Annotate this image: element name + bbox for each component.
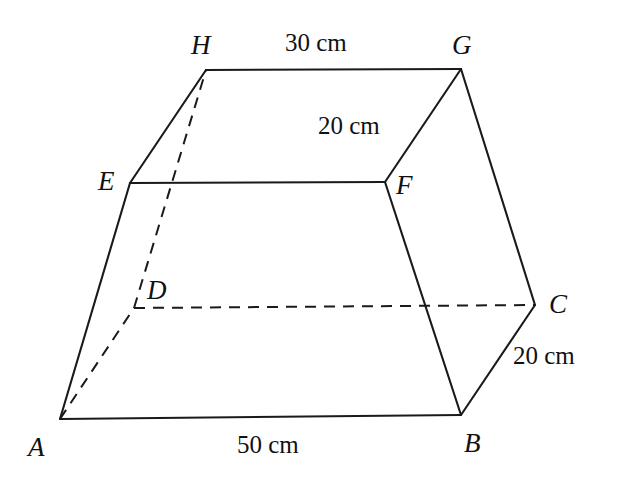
vertex-label-e: E [98,168,115,195]
edge-e-f [130,182,385,183]
hidden-edges-group [60,70,535,419]
vertex-label-h: H [191,32,211,59]
vertex-label-a: A [28,434,45,461]
edge-g-h [206,69,461,70]
edge-a-d [60,308,134,419]
edge-a-b [60,415,461,419]
vertex-label-c: C [549,291,567,318]
dimension-gf-depth: 20 cm [318,113,380,138]
edge-f-b [385,182,461,415]
visible-edges-group [60,69,535,419]
edge-f-g [385,69,461,182]
edge-h-e [130,70,206,183]
vertex-label-g: G [452,32,472,59]
edge-e-a [60,183,130,419]
dimension-bc-depth: 20 cm [513,343,575,368]
solid-figure-diagram [0,0,624,492]
dimension-hg-top: 30 cm [285,30,347,55]
edge-d-c [134,305,535,308]
vertex-label-d: D [147,277,167,304]
edge-c-g [461,69,535,305]
vertex-label-f: F [396,172,413,199]
dimension-ab-bottom: 50 cm [237,432,299,457]
vertex-label-b: B [464,430,481,457]
edge-d-h [134,70,206,308]
